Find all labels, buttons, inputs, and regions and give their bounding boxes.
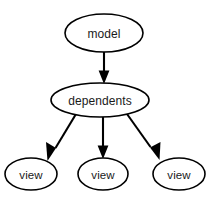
node-view-center[interactable]: view [78, 158, 128, 190]
node-dependents-label: dependents [68, 94, 132, 108]
node-view-right[interactable]: view [153, 158, 205, 190]
node-view-right-label: view [167, 169, 191, 181]
dependency-graph: model dependents view view view [0, 0, 214, 202]
arrowhead-dependents-view-left [46, 142, 56, 161]
node-model[interactable]: model [65, 14, 143, 52]
node-view-center-label: view [91, 169, 115, 181]
edge-dependents-to-view-right [127, 114, 161, 160]
edge-model-to-dependents [99, 52, 110, 84]
node-dependents[interactable]: dependents [51, 83, 149, 117]
arrowhead-model-dependents [99, 71, 110, 85]
node-view-left[interactable]: view [5, 158, 57, 190]
arrowhead-dependents-view-right [150, 142, 161, 160]
arrowhead-dependents-view-center [98, 146, 109, 160]
diagram-canvas: model dependents view view view [0, 0, 214, 202]
edge-dependents-to-view-left [46, 114, 76, 161]
edge-dependents-to-view-center [98, 117, 109, 159]
edge-line-dependents-view-left [56, 114, 77, 148]
node-model-label: model [87, 27, 120, 41]
node-view-left-label: view [19, 169, 43, 181]
edge-line-dependents-view-right [127, 114, 151, 147]
